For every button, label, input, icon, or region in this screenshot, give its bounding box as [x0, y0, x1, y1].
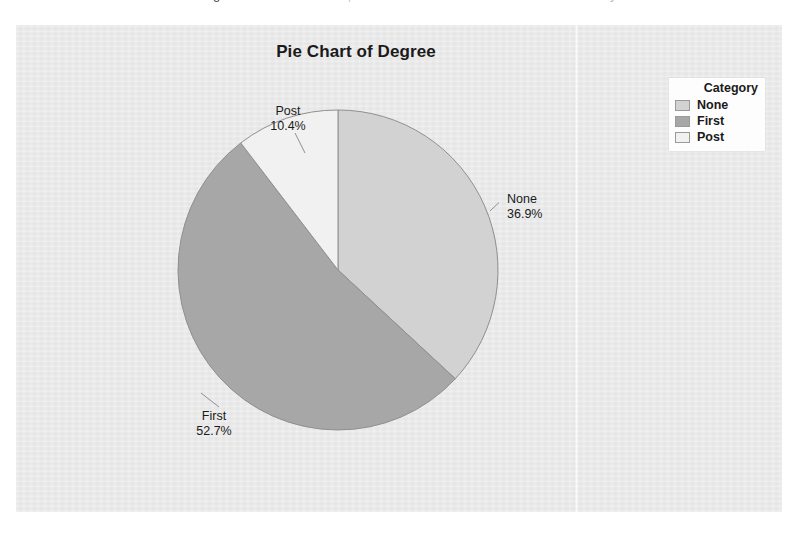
- slice-label-percent: 52.7%: [185, 424, 243, 439]
- legend-swatch-first: [675, 116, 690, 127]
- legend-entry-post[interactable]: Post: [675, 130, 724, 145]
- cutoff-text-fragment: y: [610, 0, 617, 2]
- legend-entry-label: Post: [697, 131, 724, 144]
- slice-label-name: Post: [260, 104, 316, 119]
- slice-data-label-first: First 52.7%: [185, 409, 243, 439]
- slice-label-percent: 36.9%: [507, 207, 567, 222]
- slice-data-label-post: Post 10.4%: [260, 104, 316, 134]
- legend-entry-first[interactable]: First: [675, 114, 724, 129]
- chart-title: Pie Chart of Degree: [16, 42, 696, 62]
- scan-fold-seam: [575, 25, 578, 512]
- legend-swatch-none: [675, 100, 690, 111]
- pie-graphic: [177, 109, 499, 431]
- slice-label-percent: 10.4%: [260, 119, 316, 134]
- legend-entry-none[interactable]: None: [675, 98, 728, 113]
- slice-data-label-none: None 36.9%: [507, 192, 567, 222]
- legend-swatch-post: [675, 132, 690, 143]
- cutoff-text-fragment: p: [348, 0, 355, 2]
- cutoff-text-fragment: g: [213, 0, 220, 2]
- pie-chart-panel: Pie Chart of Degree Post 10.4% None 36.9…: [16, 25, 782, 512]
- legend-entry-label: First: [697, 115, 724, 128]
- leader-line-first: [201, 393, 219, 407]
- slice-label-name: First: [185, 409, 243, 424]
- legend-title: Category: [669, 81, 758, 95]
- pie-slices: [178, 110, 498, 430]
- pie-svg: [177, 109, 499, 431]
- leader-line-none: [490, 195, 499, 211]
- chart-legend: Category None First Post: [669, 78, 765, 151]
- slice-label-name: None: [507, 192, 567, 207]
- cutoff-text-above-figure: g p y: [0, 0, 795, 20]
- legend-entry-label: None: [697, 99, 728, 112]
